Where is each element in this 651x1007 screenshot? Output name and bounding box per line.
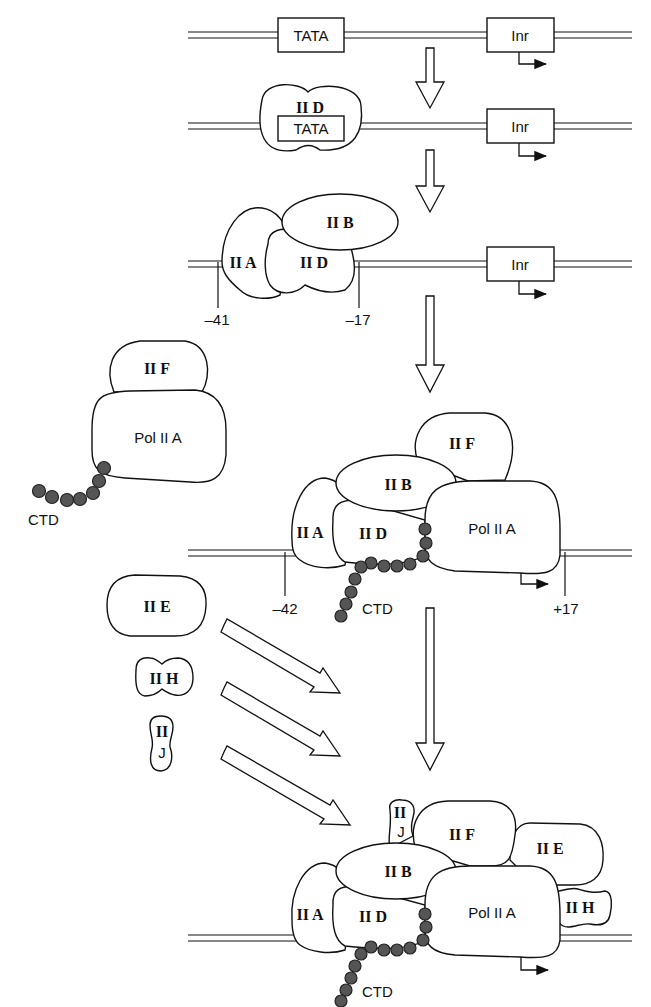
pol-ii-label: Pol II A <box>134 429 182 446</box>
iia-label: II A <box>296 524 324 541</box>
iie-label: II E <box>143 598 170 615</box>
iib-label: II B <box>384 476 411 493</box>
iia-label: II A <box>229 254 257 271</box>
iib-label: II B <box>384 863 411 880</box>
iid-label: II D <box>300 254 328 271</box>
position-label: –41 <box>204 311 229 328</box>
ctd-beads <box>33 462 111 507</box>
iij-label-bottom: J <box>158 744 166 761</box>
iif-label: II F <box>449 435 475 452</box>
iih-label: II H <box>150 670 179 687</box>
transcription-start-arrow-icon <box>519 281 546 294</box>
step-2-tfiid-binding: II D TATA Inr <box>188 85 632 156</box>
pol-ii-label: Pol II A <box>468 520 516 537</box>
iij-label-bottom: J <box>397 823 405 840</box>
iid-label: II D <box>359 525 387 542</box>
down-arrow-icon <box>416 296 444 392</box>
iid-label: II D <box>359 908 387 925</box>
position-label: +17 <box>553 600 578 617</box>
down-arrow-icon <box>416 150 444 212</box>
free-pol-ii-tfiif: II F Pol II A CTD <box>28 341 226 528</box>
inr-label: Inr <box>511 27 529 44</box>
pol-ii-label: Pol II A <box>468 904 516 921</box>
down-arrow-icon <box>416 48 444 108</box>
diagonal-arrow-icon <box>221 619 340 693</box>
ctd-label: CTD <box>362 600 393 617</box>
iie-label: II E <box>536 840 563 857</box>
inr-label: Inr <box>511 118 529 135</box>
step-1-promoter: TATA Inr <box>188 18 632 64</box>
tata-label: TATA <box>294 120 329 137</box>
iid-label: II D <box>296 99 324 116</box>
diagram-canvas: TATA Inr II D TATA Inr II A II D II B –4… <box>0 0 651 1007</box>
transcription-start-arrow-icon <box>521 957 548 970</box>
step-3-tfiia-tfiib-binding: II A II D II B –41 –17 Inr <box>188 194 632 328</box>
iij-label-top: II <box>394 804 406 821</box>
iij-label-top: II <box>156 723 168 740</box>
iih-label: II H <box>566 899 595 916</box>
down-arrow-icon <box>416 608 444 770</box>
ctd-label: CTD <box>28 511 59 528</box>
diagonal-arrow-icon <box>221 746 350 825</box>
position-label: –17 <box>345 311 370 328</box>
tata-label: TATA <box>294 27 329 44</box>
position-label: –42 <box>272 600 297 617</box>
inr-label: Inr <box>511 256 529 273</box>
iif-label: II F <box>144 360 170 377</box>
transcription-start-arrow-icon <box>519 52 546 64</box>
ctd-label: CTD <box>362 983 393 1000</box>
step-4-closed-complex: II F II A II D II B Pol II A CTD <box>188 413 632 622</box>
iia-label: II A <box>296 906 324 923</box>
iif-label: II F <box>449 826 475 843</box>
step-5-preinitiation-complex: II E II H II J II F II A II D II B Pol I… <box>188 800 632 1007</box>
diagonal-arrow-icon <box>221 682 340 756</box>
iib-label: II B <box>326 214 353 231</box>
transcription-start-arrow-icon <box>519 143 546 156</box>
free-factors: II E II H II J <box>107 575 206 771</box>
transcription-start-arrow-icon <box>521 573 548 584</box>
diagonal-arrows <box>221 619 350 825</box>
